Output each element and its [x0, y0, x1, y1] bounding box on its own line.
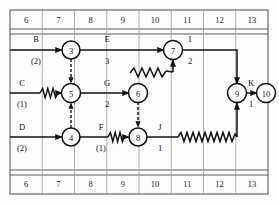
node-9[interactable]: 9 — [228, 84, 247, 103]
activity-C-name: C — [19, 78, 25, 88]
network-diagram-svg: 6 7 8 9 10 11 12 13 6 7 8 9 10 11 12 13 — [0, 0, 279, 204]
activity-F-name: F — [99, 122, 104, 132]
activity-G-name: G — [104, 78, 110, 88]
tick-bottom-1: 7 — [56, 179, 60, 189]
time-axis-top: 6 7 8 9 10 11 12 13 — [24, 15, 256, 25]
node-10[interactable]: 10 — [257, 84, 276, 103]
network-diagram-canvas: 6 7 8 9 10 11 12 13 6 7 8 9 10 11 12 13 — [0, 0, 279, 204]
node-5-label: 5 — [69, 89, 73, 99]
tick-bottom-3: 9 — [121, 179, 125, 189]
activity-K-name: K — [248, 78, 255, 88]
activity-I-duration: 2 — [188, 56, 192, 66]
node-4[interactable]: 4 — [62, 128, 80, 146]
tick-bottom-2: 8 — [88, 179, 92, 189]
activity-E-name: E — [104, 34, 109, 44]
activity-E-duration: 3 — [105, 56, 109, 66]
float-F-zigzag — [108, 132, 124, 141]
tick-top-2: 8 — [88, 15, 92, 25]
node-8[interactable]: 8 — [129, 128, 147, 146]
time-axis-bottom: 6 7 8 9 10 11 12 13 — [24, 179, 256, 189]
node-6[interactable]: 6 — [129, 84, 148, 103]
activity-K-duration: 1 — [249, 99, 253, 109]
float-J-zigzag — [178, 132, 237, 141]
node-10-label: 10 — [262, 89, 271, 99]
node-5[interactable]: 5 — [62, 84, 81, 103]
activity-J-name: J — [158, 122, 162, 132]
activity-C-duration: (1) — [17, 99, 27, 109]
tick-top-0: 6 — [24, 15, 28, 25]
tick-top-3: 9 — [121, 15, 125, 25]
edge-6-7-link — [166, 71, 173, 72]
tick-bottom-4: 10 — [151, 179, 160, 189]
tick-top-6: 12 — [215, 15, 224, 25]
activity-D-duration: (2) — [17, 143, 27, 153]
node-8-label: 8 — [136, 133, 140, 143]
float-6-7-zigzag — [130, 68, 166, 77]
node-7-label: 7 — [171, 46, 175, 56]
tick-bottom-7: 13 — [248, 179, 257, 189]
activity-J-duration: 1 — [158, 143, 162, 153]
activity-D-name: D — [19, 122, 25, 132]
tick-top-1: 7 — [56, 15, 60, 25]
tick-top-4: 10 — [151, 15, 160, 25]
node-6-label: 6 — [136, 89, 140, 99]
activity-B-duration: (2) — [31, 56, 41, 66]
node-9-label: 9 — [235, 89, 239, 99]
node-7[interactable]: 7 — [164, 41, 183, 60]
tick-bottom-5: 11 — [183, 179, 191, 189]
tick-top-5: 11 — [183, 15, 191, 25]
tick-top-7: 13 — [248, 15, 257, 25]
activity-G-duration: 2 — [105, 99, 109, 109]
tick-bottom-0: 6 — [24, 179, 28, 189]
node-3-label: 3 — [69, 46, 73, 56]
activity-I-name: I — [189, 34, 192, 44]
float-C-zigzag — [40, 88, 58, 97]
node-3[interactable]: 3 — [62, 41, 80, 59]
tick-bottom-6: 12 — [215, 179, 224, 189]
activity-B-name: B — [33, 34, 39, 44]
activity-F-duration: (1) — [96, 143, 106, 153]
